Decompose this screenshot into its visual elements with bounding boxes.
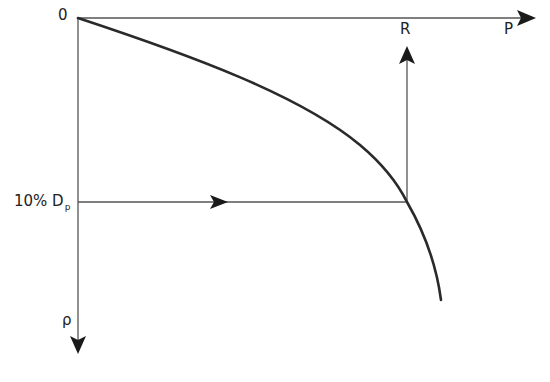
r-label: R xyxy=(400,22,410,37)
rho-axis-label: ρ xyxy=(62,313,72,328)
diagram-svg xyxy=(0,0,550,382)
level-label-subscript: p xyxy=(65,202,71,212)
p-axis-label: P xyxy=(504,22,513,37)
diagram-canvas: 0 R P ρ 10% Dp xyxy=(0,0,550,382)
pressure-curve xyxy=(78,18,441,300)
level-label-main: 10% D xyxy=(14,192,64,210)
level-label: 10% Dp xyxy=(14,194,70,212)
origin-label: 0 xyxy=(58,8,68,23)
